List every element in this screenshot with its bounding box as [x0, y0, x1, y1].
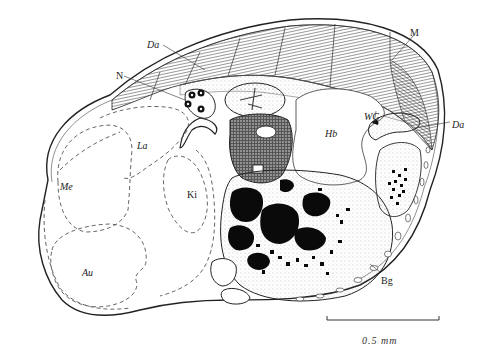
- label-hb: Hb: [325, 129, 337, 139]
- label-ki: Ki: [187, 190, 197, 200]
- scale-bar: [327, 316, 439, 320]
- cross-section-figure: [0, 0, 488, 364]
- label-bg: Bg: [381, 276, 393, 286]
- label-au: Au: [82, 268, 93, 278]
- label-da-right: Da: [452, 120, 464, 130]
- label-wg: WG: [364, 112, 380, 122]
- scale-bar-label: 0.5 mm: [362, 335, 397, 346]
- label-da-top: Da: [147, 40, 159, 50]
- label-n: N: [116, 71, 123, 81]
- label-m: M: [410, 28, 419, 38]
- label-me: Me: [60, 182, 73, 192]
- label-la: La: [137, 141, 148, 151]
